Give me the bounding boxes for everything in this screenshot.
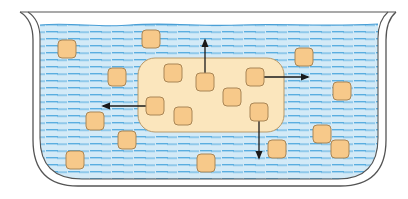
- particle-outside: [313, 125, 331, 143]
- particle-outside: [295, 48, 313, 66]
- particle-inside: [146, 97, 164, 115]
- particle-outside: [333, 82, 351, 100]
- particle-outside: [108, 68, 126, 86]
- particle-inside: [246, 68, 264, 86]
- particle-outside: [118, 131, 136, 149]
- liquid-surface: [40, 24, 378, 26]
- particle-outside: [66, 151, 84, 169]
- particle-outside: [86, 112, 104, 130]
- particle-inside: [164, 64, 182, 82]
- particle-inside: [250, 103, 268, 121]
- particle-outside: [197, 154, 215, 172]
- particle-inside: [223, 88, 241, 106]
- particle-outside: [142, 30, 160, 48]
- particle-outside: [268, 140, 286, 158]
- particle-outside: [58, 40, 76, 58]
- particle-outside: [331, 140, 349, 158]
- diffusion-diagram: [0, 0, 408, 199]
- particle-inside: [196, 73, 214, 91]
- particle-inside: [174, 107, 192, 125]
